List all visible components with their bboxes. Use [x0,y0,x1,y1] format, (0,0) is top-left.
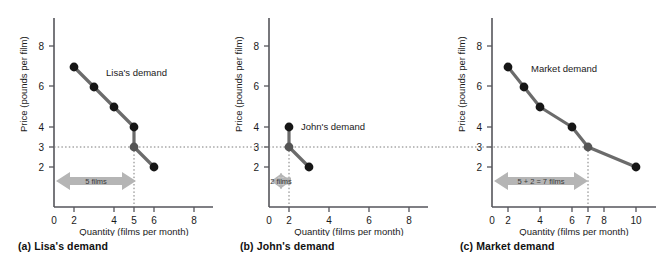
data-point [70,63,79,72]
panel-caption: (a) Lisa's demand [18,240,108,252]
arrow-label: 5 films [85,177,107,186]
y-tick-2: 2 [476,162,482,173]
y-tick-2: 2 [253,162,259,173]
x-tick-2: 2 [505,215,511,226]
panel-caption: (b) John's demand [240,240,335,252]
chart-lisas-demand: Price (pounds per film) 8 6 4 3 2 [0,0,228,236]
y-axis-ticks: 8 6 4 3 2 [253,41,269,173]
data-point [150,163,159,172]
y-tick-3: 3 [38,142,44,153]
data-point [305,163,314,172]
data-point-highlight [584,143,593,152]
data-point [90,83,99,92]
panel-johns-demand: Price (pounds per film) 8 6 4 3 2 [228,0,438,271]
demand-curve-line [74,67,154,167]
quantity-span-arrow: 5 films [56,172,136,190]
quantity-span-arrow: 2 films [270,173,292,189]
x-tick-0: 0 [489,215,495,226]
panel-lisas-demand: Price (pounds per film) 8 6 4 3 2 [0,0,228,271]
arrow-label: 5 + 2 = 7 films [517,177,564,186]
x-tick-8: 8 [601,215,607,226]
data-point [504,63,513,72]
y-axis-title: Price (pounds per film) [18,36,29,132]
panel-caption: (c) Market demand [460,240,554,252]
y-tick-6: 6 [253,81,259,92]
y-tick-6: 6 [38,81,44,92]
x-tick-10: 10 [630,215,642,226]
arrow-label: 2 films [270,177,292,186]
y-tick-4: 4 [253,122,259,133]
x-tick-6: 6 [151,215,157,226]
x-axis-title: Quantity (films per month) [294,226,403,236]
x-tick-5: 5 [131,215,137,226]
x-tick-0: 0 [266,215,272,226]
quantity-span-arrow: 5 + 2 = 7 films [494,172,588,190]
series-label: Market demand [531,63,597,74]
y-tick-2: 2 [38,162,44,173]
y-axis-ticks: 8 6 4 3 2 [476,41,492,173]
data-point [110,103,119,112]
series-label: Lisa's demand [106,67,167,78]
x-axis-ticks: 0 2 4 6 7 8 10 [489,207,642,226]
x-tick-4: 4 [326,215,332,226]
demand-curve-points [504,63,641,172]
x-tick-2: 2 [71,215,77,226]
data-point-highlight [130,143,139,152]
demand-curve-points [70,63,159,172]
x-axis-title: Quantity (films per month) [79,226,188,236]
y-tick-4: 4 [38,122,44,133]
x-axis-ticks: 0 2 4 6 8 [266,207,412,226]
x-tick-8: 8 [406,215,412,226]
demand-curve-line [508,67,636,167]
x-axis-title: Quantity (films per month) [519,226,628,236]
y-tick-4: 4 [476,122,482,133]
x-tick-8: 8 [191,215,197,226]
data-point [632,163,641,172]
x-tick-6: 6 [569,215,575,226]
data-point [568,123,577,132]
data-point-highlight [285,143,294,152]
x-tick-7: 7 [585,215,591,226]
series-label: John's demand [301,121,365,132]
x-tick-0: 0 [51,215,57,226]
y-tick-8: 8 [38,41,44,52]
y-tick-6: 6 [476,81,482,92]
x-tick-4: 4 [537,215,543,226]
x-tick-4: 4 [111,215,117,226]
data-point [285,123,294,132]
y-axis-ticks: 8 6 4 3 2 [38,41,54,173]
panel-market-demand: Price (pounds per film) 8 6 4 3 2 [438,0,666,271]
chart-market-demand: Price (pounds per film) 8 6 4 3 2 [438,0,666,236]
data-point [536,103,545,112]
y-axis-title: Price (pounds per film) [233,36,244,132]
y-tick-8: 8 [476,41,482,52]
data-point [130,123,139,132]
x-axis-ticks: 0 2 4 5 6 8 [51,207,197,226]
x-tick-6: 6 [366,215,372,226]
x-tick-2: 2 [286,215,292,226]
demand-curves-figure: Price (pounds per film) 8 6 4 3 2 [0,0,666,271]
y-axis-title: Price (pounds per film) [456,36,467,132]
data-point [520,83,529,92]
y-tick-8: 8 [253,41,259,52]
chart-johns-demand: Price (pounds per film) 8 6 4 3 2 [228,0,438,236]
